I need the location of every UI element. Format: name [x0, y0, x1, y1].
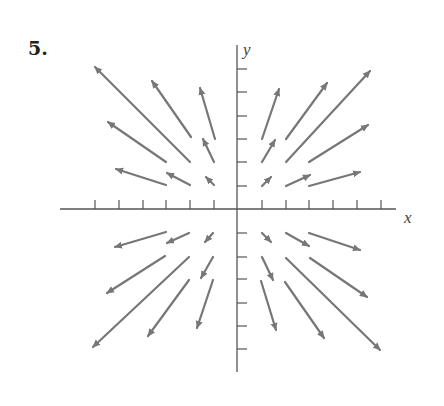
problem-number: 5. [28, 37, 48, 59]
vector-arrow [286, 175, 310, 186]
vector-arrow [200, 88, 215, 139]
vector-arrow [115, 232, 166, 247]
vector-arrow [167, 233, 189, 243]
vector-arrow [262, 89, 279, 139]
vector-arrow [309, 233, 360, 250]
y-axis-label: y [243, 40, 251, 60]
vector-arrow [309, 172, 360, 186]
vector-arrow [261, 281, 276, 330]
vector-arrow [262, 177, 271, 186]
vector-arrow [286, 83, 327, 139]
vector-arrow [205, 233, 213, 242]
vector-arrow [116, 169, 166, 185]
vector-arrow [167, 173, 190, 185]
vector-arrow [206, 177, 214, 185]
vector-arrow [262, 257, 273, 280]
axes [60, 45, 396, 372]
vector-arrow [309, 125, 368, 162]
x-axis-label: x [404, 208, 412, 228]
vector-arrow [203, 139, 214, 162]
vector-arrow [197, 280, 213, 328]
vector-arrow [262, 140, 275, 162]
vector-field-figure: 5. x y [0, 0, 444, 406]
vector-arrow [286, 233, 309, 246]
vector-field-plot [0, 0, 444, 406]
vector-arrow [286, 71, 370, 162]
vector-arrow [262, 233, 271, 242]
vector-arrow [201, 257, 213, 278]
